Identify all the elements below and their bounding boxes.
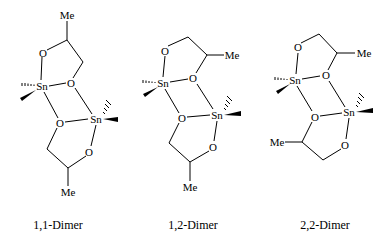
oxygen-label: O (341, 139, 349, 151)
oxygen-label: O (39, 47, 47, 59)
tin-label: Sn (157, 77, 169, 89)
hashed-bond (103, 100, 111, 114)
bond (73, 62, 83, 78)
bond (75, 88, 92, 114)
caption-1-2-dimer: 1,2-Dimer (168, 218, 218, 232)
bond (41, 57, 42, 80)
structure-1-1-dimer: Me O Sn O O Sn O Me (20, 9, 118, 198)
methyl-label: Me (270, 136, 285, 148)
bond (47, 40, 67, 50)
bond (163, 56, 165, 77)
wedge-bond (276, 84, 290, 94)
oxygen-label: O (322, 69, 330, 81)
wedge-bond (20, 90, 36, 101)
bond (196, 55, 207, 73)
wedge-bond (103, 117, 118, 122)
oxygen-label: O (209, 141, 217, 153)
wedge-bond (224, 111, 241, 116)
hashed-bond (356, 93, 364, 107)
tin-label: Sn (211, 109, 223, 121)
structure-1-2-dimer: O Me Sn O O Sn O Me (143, 37, 241, 193)
bond (302, 142, 323, 160)
bond (297, 86, 312, 111)
bond (302, 76, 320, 79)
bond (165, 89, 179, 113)
bond (187, 115, 210, 117)
bond (169, 143, 190, 162)
bond (301, 34, 319, 43)
bond (49, 83, 66, 86)
bond (47, 149, 68, 168)
bond (328, 53, 337, 70)
wedge-bond (143, 87, 158, 97)
methyl-label: Me (357, 47, 372, 59)
hashed-bond (224, 96, 232, 110)
tin-label: Sn (289, 74, 301, 86)
bond (323, 149, 341, 160)
bond (44, 92, 58, 118)
dimer-structures-figure: Me O Sn O O Sn O Me (0, 0, 391, 241)
caption-2-2-dimer: 2,2-Dimer (300, 218, 350, 232)
oxygen-label: O (56, 117, 64, 129)
methyl-label: Me (61, 186, 76, 198)
methyl-label: Me (60, 9, 75, 21)
bond (214, 121, 217, 141)
wedge-bond (356, 108, 373, 113)
bond (320, 113, 342, 116)
tin-label: Sn (36, 80, 48, 92)
tin-label: Sn (90, 113, 102, 125)
bond (302, 122, 312, 142)
bond (65, 119, 88, 122)
bond (170, 79, 188, 82)
bond (67, 40, 83, 62)
caption-1-1-dimer: 1,1-Dimer (33, 218, 83, 232)
bond (319, 34, 337, 53)
bond (197, 84, 213, 109)
bond (68, 156, 86, 168)
oxygen-label: O (85, 146, 93, 158)
bond (169, 123, 179, 143)
bond (168, 37, 188, 46)
hashed-bond (275, 77, 287, 80)
oxygen-label: O (311, 111, 319, 123)
bond (296, 53, 298, 74)
bond (188, 37, 207, 55)
tin-label: Sn (343, 106, 355, 118)
oxygen-label: O (294, 41, 302, 53)
oxygen-label: O (178, 112, 186, 124)
oxygen-label: O (161, 45, 169, 57)
bond (91, 125, 96, 146)
oxygen-label: O (67, 77, 75, 89)
oxygen-label: O (189, 72, 197, 84)
bond (47, 128, 57, 149)
methyl-label: Me (183, 181, 198, 193)
bond (190, 151, 209, 162)
hashed-bond (143, 80, 155, 83)
methyl-label: Me (225, 49, 240, 61)
bond (329, 81, 345, 107)
hashed-bond (22, 83, 34, 86)
structure-2-2-dimer: O Me Sn O O Sn O Me (270, 34, 373, 160)
bond (346, 118, 349, 139)
